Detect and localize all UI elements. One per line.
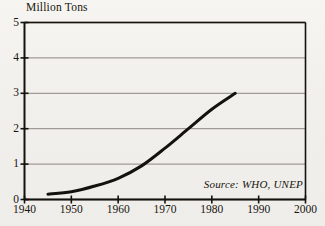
x-tick-label-1990: 1990 <box>239 203 279 215</box>
y-tick-label-1: 1 <box>3 157 19 169</box>
plot-canvas <box>0 0 325 226</box>
y-tick-label-2: 2 <box>3 122 19 134</box>
x-tick-label-1940: 1940 <box>5 203 45 215</box>
gridlines <box>25 23 306 200</box>
x-tick-label-1970: 1970 <box>145 203 185 215</box>
x-tick-label-1950: 1950 <box>51 203 91 215</box>
line-chart: Million Tons 012345 19401950196019701980… <box>0 0 325 226</box>
axis-ticks <box>21 23 306 204</box>
axis-frame <box>25 23 306 200</box>
y-tick-label-5: 5 <box>3 16 19 28</box>
source-annotation: Source: WHO, UNEP <box>204 178 303 190</box>
chart-screenshot: Million Tons 012345 19401950196019701980… <box>0 0 325 226</box>
y-tick-label-4: 4 <box>3 51 19 63</box>
x-tick-label-2000: 2000 <box>286 203 325 215</box>
x-tick-label-1980: 1980 <box>192 203 232 215</box>
y-tick-label-3: 3 <box>3 86 19 98</box>
x-tick-label-1960: 1960 <box>98 203 138 215</box>
